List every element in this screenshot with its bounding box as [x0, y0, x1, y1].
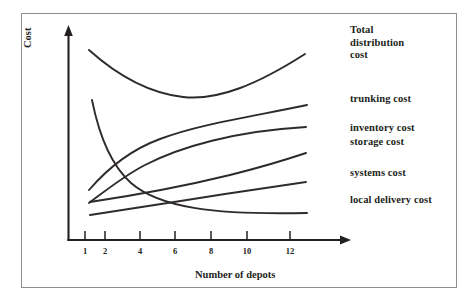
series-label-total-distribution-cost: Total distribution cost [350, 24, 404, 62]
tick-label-10: 10 [243, 246, 252, 256]
series-label-local-delivery-cost: local delivery cost [350, 194, 432, 207]
curve-inventory-storage-cost [89, 127, 306, 203]
x-axis-tick-labels: 1 2 4 6 8 10 12 [83, 246, 294, 256]
series-label-systems-cost: systems cost [350, 167, 406, 180]
tick-label-2: 2 [103, 246, 107, 256]
tick-label-1: 1 [83, 246, 87, 256]
tick-label-8: 8 [209, 246, 213, 256]
curve-total-distribution-cost [89, 50, 305, 98]
curve-trunking-cost [89, 105, 307, 190]
series-label-inventory-cost: inventory cost [350, 122, 415, 135]
tick-label-4: 4 [138, 246, 143, 256]
series-label-storage-cost: storage cost [350, 136, 404, 149]
x-axis-title: Number of depots [195, 269, 275, 280]
x-axis-arrow-icon [340, 236, 351, 245]
tick-label-12: 12 [286, 246, 295, 256]
tick-label-6: 6 [173, 246, 177, 256]
curve-systems-cost [90, 153, 306, 202]
figure-page: 1 2 4 6 8 10 12 Cost Number of depots To… [0, 0, 475, 306]
y-axis-arrow-icon [64, 25, 73, 36]
y-axis-title: Cost [22, 34, 33, 48]
curve-local-delivery-cost [90, 182, 306, 215]
x-axis-ticks [85, 231, 290, 240]
series-label-trunking-cost: trunking cost [350, 93, 411, 106]
